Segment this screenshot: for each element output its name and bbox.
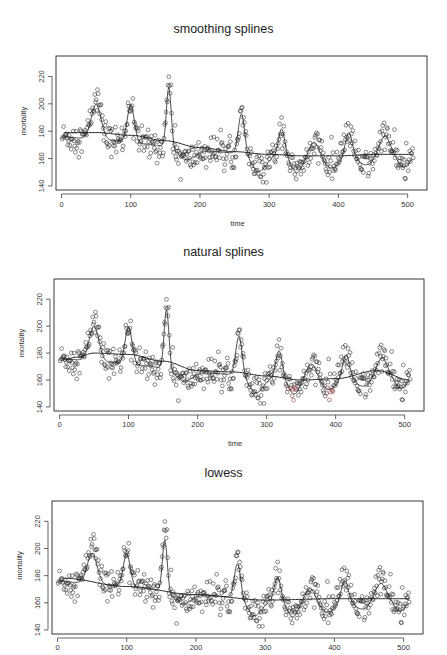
x-axis: 0100200300400500 — [55, 638, 409, 652]
y-tick-label: 200 — [37, 98, 46, 111]
x-tick-label: 300 — [260, 420, 273, 429]
y-axis: 140160180200220 — [37, 70, 52, 192]
y-axis-label: mortality — [19, 107, 28, 136]
x-tick-label: 500 — [401, 200, 414, 209]
observed-points — [56, 520, 411, 629]
plot-natural-splines: 0100200300400500time140160180200220morta… — [0, 222, 447, 452]
seasonal-fit-line — [63, 88, 413, 173]
x-tick-label: 400 — [332, 200, 345, 209]
y-tick-label: 140 — [37, 180, 46, 193]
x-axis: 0100200300400500 — [57, 415, 410, 429]
x-tick-label: 500 — [398, 420, 411, 429]
plot-smoothing-splines: 0100200300400500time140160180200220morta… — [0, 0, 447, 230]
x-tick-label: 0 — [55, 643, 59, 652]
x-tick-label: 500 — [397, 643, 410, 652]
seasonal-fit-line — [59, 540, 409, 617]
y-tick-label: 220 — [33, 515, 42, 528]
x-tick-label: 200 — [194, 200, 207, 209]
y-tick-label: 220 — [35, 293, 44, 306]
x-tick-label: 100 — [120, 643, 133, 652]
y-axis-label: mortality — [15, 551, 24, 580]
x-tick-label: 0 — [57, 420, 61, 429]
y-tick-label: 160 — [37, 152, 46, 165]
y-axis: 140160180200220 — [35, 293, 50, 413]
y-tick-label: 160 — [35, 374, 44, 387]
x-tick-label: 400 — [329, 420, 342, 429]
x-tick-label: 200 — [191, 420, 204, 429]
x-tick-label: 100 — [122, 420, 135, 429]
x-tick-label: 0 — [59, 200, 63, 209]
y-tick-label: 180 — [37, 125, 46, 138]
y-tick-label: 160 — [33, 597, 42, 610]
plot-lowess: 0100200300400500140160180200220mortality — [0, 444, 447, 644]
y-axis-label: mortality — [17, 329, 26, 358]
x-tick-label: 300 — [259, 643, 272, 652]
y-tick-label: 200 — [35, 320, 44, 333]
y-tick-label: 180 — [33, 569, 42, 582]
y-tick-label: 220 — [37, 70, 46, 83]
y-tick-label: 140 — [33, 624, 42, 637]
x-tick-label: 100 — [124, 200, 137, 209]
y-axis: 140160180200220 — [33, 515, 48, 636]
x-tick-label: 400 — [328, 643, 341, 652]
y-tick-label: 200 — [33, 542, 42, 555]
x-tick-label: 200 — [190, 643, 203, 652]
y-tick-label: 140 — [35, 401, 44, 414]
seasonal-fit-line — [61, 310, 410, 394]
observed-points — [60, 75, 415, 185]
observed-points — [58, 297, 412, 405]
x-axis: 0100200300400500 — [59, 194, 413, 209]
x-tick-label: 300 — [263, 200, 276, 209]
y-tick-label: 180 — [35, 347, 44, 360]
